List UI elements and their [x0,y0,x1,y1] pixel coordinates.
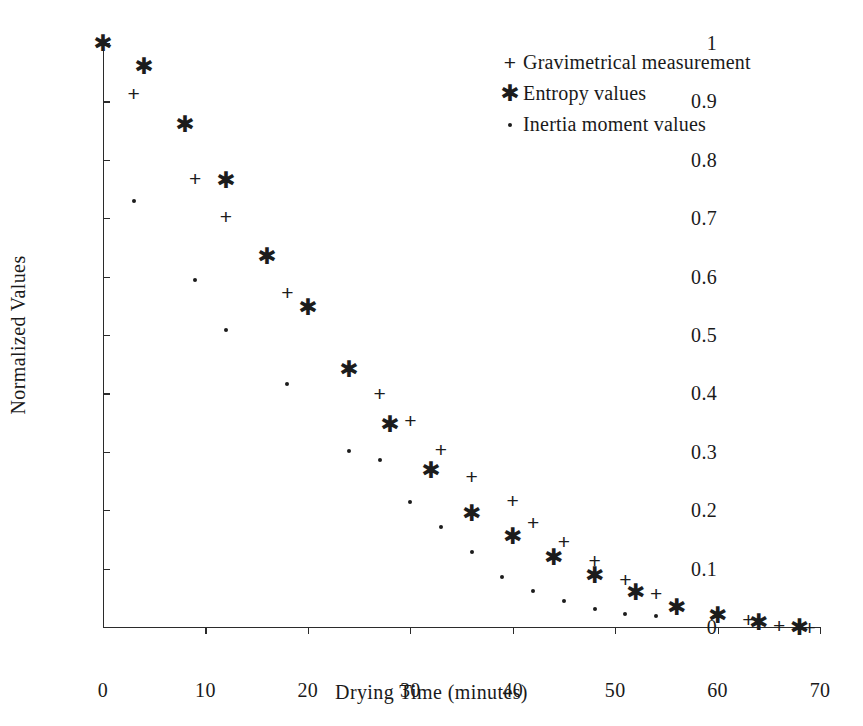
data-point-asterisk: ✱ [380,412,399,435]
data-point-dot [654,614,658,618]
data-point-dot [224,328,228,332]
data-point-asterisk: ✱ [339,357,358,380]
data-point-asterisk: ✱ [216,169,235,192]
data-point-asterisk: ✱ [503,524,522,547]
y-tick-mark [103,569,110,570]
data-point-plus: + [507,489,519,510]
data-point-asterisk: ✱ [749,611,768,634]
x-tick-mark [205,627,206,634]
x-tick-mark [410,627,411,634]
data-point-asterisk: ✱ [626,580,645,603]
data-point-dot [593,607,597,611]
data-point-plus: + [128,82,140,103]
y-tick-label: 0.4 [691,382,717,405]
data-point-dot [470,550,474,554]
y-tick-mark [103,627,110,628]
data-point-plus: + [404,410,416,431]
data-point-asterisk: ✱ [790,616,809,639]
y-tick-mark [103,101,110,102]
data-point-plus: + [527,511,539,532]
y-tick-label: 0.6 [691,265,717,288]
chart-legend: +Gravimetrical measurement✱Entropy value… [497,47,827,140]
x-tick-mark [820,627,821,634]
y-tick-label: 0.2 [691,499,717,522]
data-point-dot [285,382,289,386]
data-point-asterisk: ✱ [298,295,317,318]
data-point-asterisk: ✱ [585,564,604,587]
data-point-asterisk: ✱ [708,604,727,627]
dot-shape [508,123,512,127]
x-tick-mark [513,627,514,634]
data-point-dot [408,500,412,504]
asterisk-marker-icon: ✱ [497,82,523,105]
data-point-plus: + [220,206,232,227]
y-axis-title: Normalized Values [7,255,30,414]
data-point-dot [562,599,566,603]
data-point-dot [193,278,197,282]
legend-item[interactable]: ✱Entropy values [497,78,827,109]
data-point-dot [623,612,627,616]
data-point-dot [439,525,443,529]
data-point-asterisk: ✱ [544,545,563,568]
data-point-dot [378,458,382,462]
data-point-asterisk: ✱ [93,32,112,55]
data-point-plus: + [373,383,385,404]
data-point-asterisk: ✱ [134,54,153,77]
y-tick-mark [103,393,110,394]
legend-item[interactable]: Inertia moment values [497,109,827,140]
legend-item-label: Entropy values [523,82,646,105]
dot-marker-icon [497,123,523,127]
y-tick-mark [103,277,110,278]
y-tick-mark [103,160,110,161]
data-point-asterisk: ✱ [667,596,686,619]
data-point-asterisk: ✱ [175,113,194,136]
legend-item-label: Gravimetrical measurement [523,51,751,74]
y-tick-label: 0.3 [691,440,717,463]
y-tick-mark [103,335,110,336]
legend-item[interactable]: +Gravimetrical measurement [497,47,827,78]
data-point-dot [347,449,351,453]
y-tick-label: 0.8 [691,148,717,171]
y-tick-label: 0.1 [691,557,717,580]
data-point-plus: + [466,466,478,487]
data-point-dot [500,575,504,579]
data-point-plus: + [281,281,293,302]
data-point-dot [132,199,136,203]
y-tick-label: 0.7 [691,207,717,230]
data-point-plus: + [650,583,662,604]
x-tick-mark [615,627,616,634]
scatter-chart-figure: 00.10.20.30.40.50.60.70.80.91 0102030405… [0,0,863,726]
plus-marker-icon: + [497,52,523,73]
x-axis-title: Drying Time (minutes) [0,681,863,704]
legend-item-label: Inertia moment values [523,113,706,136]
data-point-dot [531,589,535,593]
y-tick-mark [103,218,110,219]
data-point-asterisk: ✱ [421,458,440,481]
data-point-plus: + [189,168,201,189]
x-tick-mark [718,627,719,634]
data-point-asterisk: ✱ [257,245,276,268]
y-tick-mark [103,510,110,511]
y-tick-mark [103,452,110,453]
y-tick-label: 0.5 [691,324,717,347]
x-tick-mark [308,627,309,634]
data-point-plus: + [773,615,785,636]
data-point-asterisk: ✱ [462,502,481,525]
